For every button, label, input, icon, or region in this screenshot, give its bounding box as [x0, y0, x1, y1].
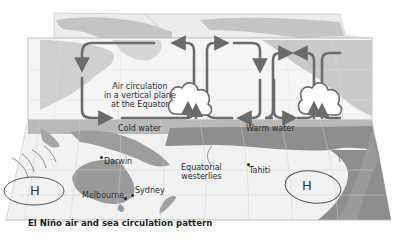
annotation-line-3: at the Equator — [104, 100, 176, 109]
map-illustration — [0, 0, 399, 243]
upper-map-plate — [54, 13, 378, 38]
annotation-line-2: in a vertical plane — [104, 91, 176, 100]
darwin-marker — [100, 156, 103, 159]
high-pressure-label-left: H — [30, 183, 40, 198]
melbourne-marker — [124, 197, 127, 200]
air-circulation-annotation: Air circulation in a vertical plane at t… — [104, 82, 176, 109]
el-nino-diagram: Air circulation in a vertical plane at t… — [0, 0, 399, 243]
cold-water-label: Cold water — [118, 124, 161, 133]
diagram-title: El Niño air and sea circulation pattern — [28, 218, 212, 228]
melbourne-label: Melbourne — [82, 191, 124, 200]
equatorial-westerlies-label: Equatorial westerlies — [181, 163, 222, 181]
tahiti-label: Tahiti — [249, 166, 270, 175]
winds-line-1: Equatorial — [181, 163, 222, 172]
winds-line-2: westerlies — [181, 172, 222, 181]
sydney-label: Sydney — [135, 186, 165, 195]
annotation-line-1: Air circulation — [104, 82, 176, 91]
high-pressure-label-right: H — [302, 178, 312, 193]
warm-water-label: Warm water — [246, 124, 295, 133]
sydney-marker — [131, 194, 134, 197]
darwin-label: Darwin — [104, 157, 132, 166]
